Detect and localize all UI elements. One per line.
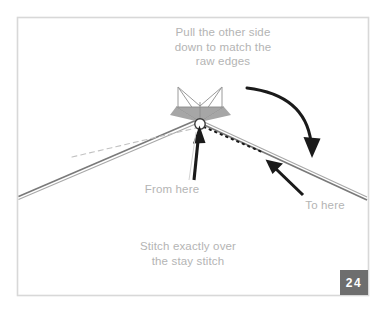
illustration-root: Pull the other side down to match the ra… xyxy=(0,0,386,313)
caption-to-here: To here xyxy=(282,198,368,213)
page-number-badge: 24 xyxy=(340,270,368,295)
caption-from-here: From here xyxy=(112,182,232,197)
caption-stitch-over-stay-stitch: Stitch exactly over the stay stitch xyxy=(108,239,268,268)
caption-pull-other-side: Pull the other side down to match the ra… xyxy=(143,25,303,69)
